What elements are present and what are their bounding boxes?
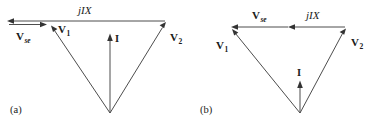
panel-a-label-i: I: [115, 33, 119, 44]
panel-a-label-v2: V2: [170, 31, 182, 46]
panel-a-caption: (a): [10, 104, 22, 116]
panel-b-caption: (b): [200, 104, 213, 116]
panel-a-jix-arrowhead-icon: [7, 18, 14, 24]
panel-b-label-jix: jIX: [304, 9, 321, 21]
panel-b-jix-arrowhead-icon: [288, 24, 295, 30]
phasor-figure: Vse V1 V2 I jIX (a) Vse: [0, 0, 376, 125]
panel-b-label-v2: V2: [351, 36, 363, 51]
panel-a-v1-arrowhead-icon: [51, 26, 57, 33]
panel-b-group: Vse V1 V2 I jIX (b): [200, 9, 363, 116]
panel-a-label-vse: Vse: [16, 30, 31, 45]
panel-b-v1-vector: [236, 34, 301, 114]
panel-b-v1-arrowhead-icon: [232, 29, 238, 36]
panel-b-v2-vector: [300, 34, 343, 114]
panel-a-group: Vse V1 V2 I jIX (a): [7, 4, 182, 116]
panel-b-label-i: I: [297, 67, 301, 78]
panel-a-v1-vector: [55, 31, 111, 114]
panel-a-label-jix: jIX: [76, 4, 93, 16]
panel-b-v2-arrowhead-icon: [340, 29, 346, 35]
panel-a-vse-arrowhead-icon: [40, 22, 47, 28]
panel-a-label-v1: V1: [58, 23, 70, 38]
panel-a-i-arrowhead-icon: [107, 34, 113, 42]
panel-b-i-arrowhead-icon: [297, 81, 303, 89]
panel-b-label-vse: Vse: [252, 9, 267, 24]
phasor-diagram-svg: Vse V1 V2 I jIX (a) Vse: [0, 0, 376, 125]
panel-b-label-v1: V1: [216, 39, 228, 54]
panel-b-vse-arrowhead-icon: [231, 24, 238, 30]
panel-a-v2-arrowhead-icon: [160, 22, 166, 28]
